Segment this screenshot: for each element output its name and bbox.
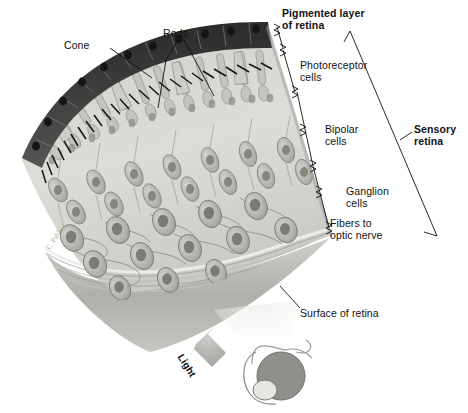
sensory-retina-tick <box>400 132 412 140</box>
retina-histology-figure: C. Publ Con <box>0 0 468 413</box>
artist-signature: C. Publ <box>45 229 63 251</box>
label-surface-of-retina: Surface of retina <box>300 308 379 320</box>
label-cone: Cone <box>64 40 90 52</box>
retina-illustration-artwork: C. Publ <box>0 0 468 413</box>
label-ganglion-cells: Ganglion cells <box>346 186 389 209</box>
label-fibers-to-optic-nerve: Fibers to optic nerve <box>330 218 382 241</box>
label-rods: Rods <box>163 28 188 40</box>
label-photoreceptor-cells: Photoreceptor cells <box>300 60 367 83</box>
label-pigmented-layer: Pigmented layer of retina <box>282 8 365 31</box>
label-sensory-retina: Sensory retina <box>414 124 456 147</box>
label-bipolar-cells: Bipolar cells <box>325 124 358 147</box>
